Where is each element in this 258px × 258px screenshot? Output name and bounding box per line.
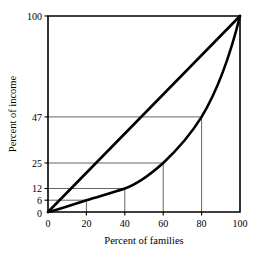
ytick-label-47: 47: [32, 112, 42, 123]
xtick-label-0: 0: [46, 218, 51, 229]
ytick-label-6: 6: [37, 195, 42, 206]
xtick-label-60: 60: [158, 218, 168, 229]
y-axis-title: Percent of income: [7, 75, 18, 152]
xtick-label-80: 80: [197, 218, 207, 229]
ytick-label-12: 12: [32, 183, 42, 194]
x-axis-title: Percent of families: [104, 235, 183, 246]
lorenz-curve-chart: 100 47 25 12 6 0 0 20 40 60 80 100 Perce…: [0, 0, 258, 258]
ytick-label-0: 0: [37, 208, 42, 219]
xtick-label-100: 100: [233, 218, 248, 229]
xtick-label-40: 40: [120, 218, 130, 229]
ytick-label-25: 25: [32, 158, 42, 169]
ytick-label-100: 100: [27, 11, 42, 22]
xtick-label-20: 20: [81, 218, 91, 229]
chart-canvas: 100 47 25 12 6 0 0 20 40 60 80 100 Perce…: [0, 0, 258, 258]
